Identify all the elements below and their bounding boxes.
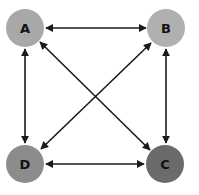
- graph-diagram: A B C D: [0, 0, 199, 195]
- node-d-label: D: [20, 157, 31, 172]
- node-c: C: [146, 145, 184, 183]
- node-a: A: [6, 9, 44, 47]
- edges: [25, 28, 166, 164]
- node-b-label: B: [161, 21, 171, 36]
- node-d: D: [6, 145, 44, 183]
- node-b: B: [147, 9, 185, 47]
- node-a-label: A: [20, 21, 30, 36]
- node-c-label: C: [160, 157, 170, 172]
